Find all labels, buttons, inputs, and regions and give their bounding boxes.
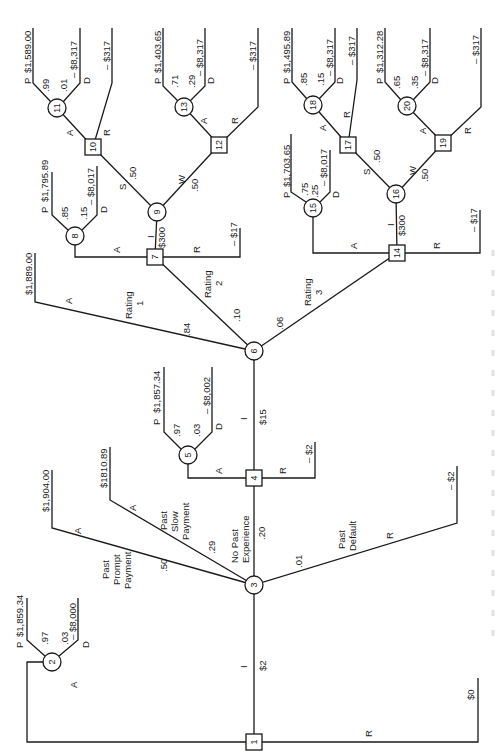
label-5-P: P (151, 419, 162, 425)
label-9-S: S (117, 184, 128, 190)
label-14-I: I (385, 223, 396, 226)
svg-text:11: 11 (52, 103, 62, 112)
label-12-A: A (198, 117, 209, 124)
label-3-prompt-l2: Prompt (111, 554, 122, 585)
prob-3-prompt: .50 (158, 559, 169, 572)
label-4-R: R (277, 467, 288, 474)
chance-node-3: 3 (245, 576, 263, 594)
label-7-R: R (191, 246, 202, 253)
svg-text:8: 8 (70, 233, 80, 238)
label-2-D: D (80, 641, 91, 648)
tree-edges (27, 28, 481, 742)
label-6-rating1-l1: Rating (123, 292, 134, 319)
prob-16-W: .50 (419, 169, 430, 182)
prob-8-P: .85 (59, 207, 70, 220)
label-6-rating3-l2: 3 (313, 290, 324, 295)
label-3-slow-A: A (127, 504, 138, 511)
label-11-P: P (22, 78, 33, 84)
edge-9-S (93, 147, 157, 212)
prob-3-slow: .29 (206, 541, 217, 554)
prob-2-P: .97 (39, 632, 50, 645)
label-2-P: P (14, 642, 25, 648)
decision-tree-diagram: 1 2 3 4 5 6 7 8 9 10 11 12 13 14 15 16 1… (0, 0, 498, 754)
payoff-5-P: $1,857.34 (151, 371, 162, 413)
prob-18-P: .85 (298, 73, 309, 86)
label-20-D: D (429, 77, 440, 84)
payoff-20-P: $1,312.28 (374, 31, 385, 73)
payoff-14-R: – $17 (468, 208, 479, 232)
edge-2-P (27, 598, 45, 656)
svg-text:5: 5 (183, 452, 193, 457)
chance-node-5: 5 (179, 446, 197, 464)
prob-5-D: .03 (191, 424, 202, 437)
chance-node-2: 2 (43, 653, 61, 671)
decision-node-12: 12 (211, 137, 227, 153)
decision-node-14: 14 (389, 245, 405, 261)
edge-18-P (292, 28, 307, 99)
payoff-5-D: – $8,002 (201, 377, 212, 414)
payoff-4-R: – $2 (303, 445, 314, 464)
tree-nodes: 1 2 3 4 5 6 7 8 9 10 11 12 13 14 15 16 1… (43, 96, 451, 750)
payoff-7-R: – $17 (228, 222, 239, 246)
chance-node-13: 13 (175, 98, 193, 116)
label-6-rating3-l1: Rating (302, 279, 313, 306)
svg-text:15: 15 (308, 203, 318, 213)
svg-text:2: 2 (47, 659, 57, 664)
label-14-R: R (431, 242, 442, 249)
svg-text:6: 6 (249, 348, 259, 353)
label-13-D: D (205, 77, 216, 84)
chance-node-9: 9 (148, 203, 166, 221)
label-9-W: W (176, 175, 187, 184)
decision-node-10: 10 (85, 139, 101, 155)
label-14-A: A (348, 242, 359, 249)
label-1-A: A (68, 681, 79, 688)
prob-11-D: .01 (58, 79, 69, 92)
payoff-13-P: $1,403.65 (152, 31, 163, 73)
label-3-slow-l3: Payment (180, 502, 191, 540)
payoff-11-D: – $8,317 (68, 41, 79, 78)
svg-text:10: 10 (88, 142, 98, 152)
payoff-8-D: – $8,017 (85, 168, 96, 205)
payoff-3-slow: $1810.89 (98, 448, 109, 488)
prob-5-P: .97 (171, 424, 182, 437)
prob-6-rating3: .06 (274, 317, 285, 330)
label-4-A: A (213, 467, 224, 474)
payoff-15-P: $1,703.65 (281, 145, 292, 187)
payoff-3-prompt: $1,904.00 (40, 470, 51, 512)
payoff-13-D: – $8,317 (194, 39, 205, 76)
label-18-P: P (281, 78, 292, 84)
label-15-P: P (281, 192, 292, 198)
label-15-D: D (330, 191, 341, 198)
label-1-I: I (238, 665, 249, 668)
label-3-slow-l2: Slow (169, 511, 180, 532)
prob-16-S: .50 (371, 150, 382, 163)
chance-node-11: 11 (48, 99, 66, 117)
label-16-S: S (361, 169, 372, 175)
svg-text:17: 17 (343, 140, 353, 150)
label-1-R: R (363, 730, 374, 737)
label-6-rating2-l2: 2 (213, 281, 224, 286)
svg-text:4: 4 (249, 475, 259, 480)
label-4-I: I (238, 417, 249, 420)
label-8-D: D (98, 206, 109, 213)
svg-text:1: 1 (249, 739, 259, 744)
decision-node-17: 17 (340, 137, 356, 153)
label-12-R: R (229, 117, 240, 124)
payoff-20-D: – $8,317 (419, 39, 430, 76)
label-1-I-cost: $2 (257, 660, 268, 671)
label-8-P: P (39, 207, 50, 213)
decision-node-19: 19 (435, 135, 451, 151)
edge-8-P (52, 172, 68, 230)
label-6-rating1-l2: 1 (134, 301, 145, 306)
prob-6-rating2: .10 (231, 309, 242, 322)
prob-9-S: .50 (127, 167, 138, 180)
label-3-prompt-A: A (72, 527, 83, 534)
label-4-I-cost: $15 (257, 409, 268, 425)
edge-6-rating3 (254, 253, 397, 351)
svg-text:3: 3 (249, 582, 259, 587)
label-13-P: P (152, 78, 163, 84)
label-3-prompt-l3: Payment (122, 551, 133, 589)
payoff-12-R: – $317 (247, 41, 258, 70)
chance-node-8: 8 (66, 227, 84, 245)
chance-node-6: 6 (245, 342, 263, 360)
